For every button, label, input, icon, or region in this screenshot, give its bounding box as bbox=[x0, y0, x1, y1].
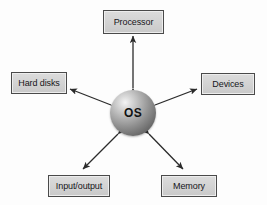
connector-os-input-output bbox=[83, 134, 118, 169]
os-center-sphere[interactable]: OS bbox=[110, 90, 156, 136]
node-box-hard-disks[interactable]: Hard disks bbox=[11, 72, 67, 94]
node-box-processor[interactable]: Processor bbox=[103, 10, 164, 34]
node-label-devices: Devices bbox=[212, 80, 243, 89]
connector-os-hard-disks bbox=[70, 89, 111, 105]
node-label-input-output: Input/output bbox=[56, 182, 102, 191]
node-box-devices[interactable]: Devices bbox=[201, 73, 255, 95]
node-label-memory: Memory bbox=[173, 182, 205, 191]
node-label-hard-disks: Hard disks bbox=[18, 79, 60, 88]
node-label-processor: Processor bbox=[114, 18, 154, 27]
connector-os-devices bbox=[155, 89, 197, 105]
connector-os-memory bbox=[149, 134, 183, 169]
diagram-canvas: Processor Hard disks Devices Input/outpu… bbox=[0, 0, 267, 205]
node-box-input-output[interactable]: Input/output bbox=[48, 175, 110, 197]
node-box-memory[interactable]: Memory bbox=[161, 175, 217, 197]
os-center-label: OS bbox=[124, 107, 142, 119]
